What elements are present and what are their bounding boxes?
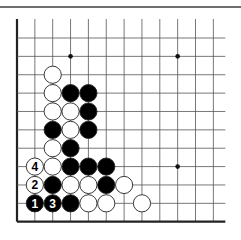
move-number-label: 2 xyxy=(32,178,39,192)
white-stone xyxy=(80,176,97,193)
black-stone xyxy=(98,176,115,193)
black-stone xyxy=(62,158,79,175)
move-number-label: 3 xyxy=(49,197,56,211)
go-board: 4213 xyxy=(0,0,241,240)
white-stone xyxy=(44,85,61,102)
white-stone xyxy=(44,158,61,175)
white-stone xyxy=(44,140,61,157)
black-stone xyxy=(44,121,61,138)
white-stone xyxy=(44,103,61,120)
white-stone xyxy=(62,176,79,193)
white-stone xyxy=(44,66,61,83)
black-stone xyxy=(62,195,79,212)
black-stone xyxy=(80,85,97,102)
black-stone xyxy=(80,121,97,138)
black-stone xyxy=(98,158,115,175)
star-point xyxy=(175,164,180,169)
star-point xyxy=(175,54,180,59)
star-point xyxy=(68,54,73,59)
white-stone xyxy=(116,176,133,193)
move-number-label: 4 xyxy=(32,160,39,174)
white-stone xyxy=(80,195,97,212)
black-stone xyxy=(62,140,79,157)
white-stone xyxy=(62,103,79,120)
black-stone xyxy=(62,85,79,102)
white-stone xyxy=(62,121,79,138)
move-number-label: 1 xyxy=(32,197,39,211)
white-stone xyxy=(133,195,150,212)
black-stone xyxy=(80,103,97,120)
black-stone xyxy=(44,176,61,193)
black-stone xyxy=(80,158,97,175)
white-stone xyxy=(98,195,115,212)
